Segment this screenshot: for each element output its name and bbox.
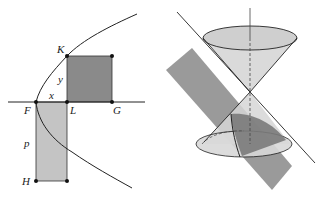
label-f: F bbox=[23, 104, 31, 116]
point-square-corner bbox=[110, 54, 114, 58]
label-g: G bbox=[113, 104, 121, 116]
label-p: p bbox=[23, 137, 30, 149]
label-l: L bbox=[69, 104, 76, 116]
square-kg bbox=[67, 56, 112, 102]
label-x: x bbox=[48, 89, 54, 101]
label-h: H bbox=[21, 175, 31, 187]
label-y: y bbox=[57, 73, 63, 85]
point-rect-corner bbox=[65, 179, 69, 183]
cone-figure bbox=[166, 8, 315, 190]
point-h bbox=[34, 179, 38, 183]
conic-diagram: K y x F L G p H bbox=[0, 0, 318, 200]
parabola-figure: K y x F L G p H bbox=[8, 14, 145, 188]
point-l bbox=[65, 100, 69, 104]
rectangle-fh bbox=[36, 102, 67, 181]
label-k: K bbox=[56, 43, 65, 55]
point-f bbox=[34, 100, 38, 104]
point-k bbox=[65, 54, 69, 58]
